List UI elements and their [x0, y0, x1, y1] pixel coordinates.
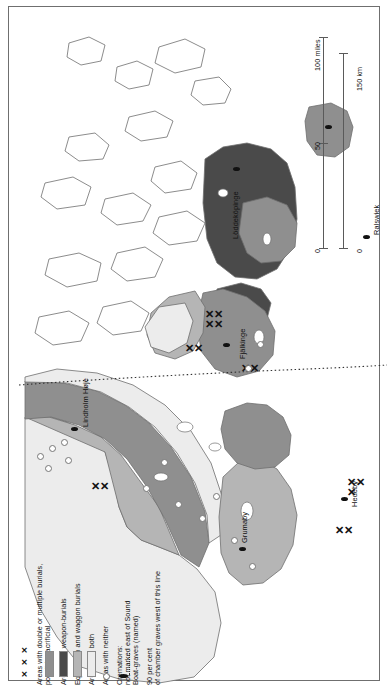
island-e: [125, 111, 173, 141]
place-label-lindholm-hoje: Lindholm Høje: [81, 378, 90, 427]
map-frame: ✕✕ ✕✕✕✕ ✕✕ ✕✕ ✕✕✕ ✕✕ Lindholm Høje Lödde…: [8, 6, 380, 681]
scale-label-km-0: 0: [355, 249, 364, 253]
boat-grave-dot-hedeby: [341, 497, 348, 501]
cremation-marker: [161, 459, 168, 466]
scale-label-miles-0: 0: [313, 249, 322, 253]
place-label-hedeby: Hedeby: [350, 481, 359, 507]
island-i: [151, 161, 197, 193]
lake-7: [263, 233, 271, 245]
cremation-marker: [257, 341, 264, 348]
legend-label-boat-graves: Boat-graves (named): [131, 616, 140, 685]
cremation-marker: [61, 439, 68, 446]
legend-swatch-weapon-burials: [45, 651, 54, 677]
lake-3: [154, 473, 168, 481]
island-m: [35, 311, 89, 345]
scale-tick-km-0: [339, 248, 348, 249]
boat-grave-dot-lindholm-hoje: [71, 427, 78, 431]
cremation-marker: [143, 485, 150, 492]
cremation-marker: [175, 501, 182, 508]
boat-grave-dot-fjalkinge: [223, 343, 230, 347]
cremation-marker: [213, 493, 220, 500]
region-funen-weapon: [221, 403, 291, 469]
scale-label-miles-50: 50: [313, 142, 322, 150]
map-x-cluster-6: ✕✕: [335, 525, 353, 535]
map-x-cluster-3: ✕✕: [185, 343, 203, 353]
island-k: [111, 247, 163, 281]
cremation-marker: [231, 537, 238, 544]
scale-bar: 0 50 100 miles 0 150 km: [297, 31, 369, 263]
figure-page: ✕✕ ✕✕✕✕ ✕✕ ✕✕ ✕✕✕ ✕✕ Lindholm Høje Lödde…: [0, 0, 388, 687]
lake-2: [209, 443, 221, 451]
place-label-ralswiek: Ralswiek: [372, 205, 381, 235]
island-b: [115, 61, 153, 89]
island-g: [41, 177, 91, 209]
scale-label-km-unit: 150 km: [355, 67, 364, 91]
legend-symbol-double-burials: ✕: [21, 659, 28, 667]
legend-symbol-chamber-line: [129, 653, 130, 675]
cremation-marker: [245, 365, 252, 372]
cremation-marker: [199, 515, 206, 522]
island-a: [67, 37, 105, 65]
legend-swatch-neither: [87, 651, 96, 677]
island-j: [45, 253, 101, 287]
cremation-marker: [249, 563, 256, 570]
map-x-cluster-2: ✕✕✕✕: [205, 309, 223, 329]
legend-symbol-cremations: [103, 673, 110, 680]
legend-symbol-double-burials: ✕: [21, 647, 28, 655]
scale-tick-miles-100: [319, 37, 328, 38]
region-ne-weapon: [239, 197, 297, 263]
island-n: [97, 301, 149, 335]
legend: ✕ ✕ ✕ Areas with double or multiple buri…: [19, 447, 139, 687]
island-c: [155, 39, 205, 73]
scale-tick-km-150: [339, 53, 348, 54]
scale-bar-km-line: [343, 53, 344, 249]
region-south-jutland-both: [219, 459, 297, 585]
place-label-fjalkinge: Fjälkinge: [238, 329, 247, 359]
place-label-grumaby: Grumaby: [240, 512, 249, 543]
boat-grave-dot-grumaby: [239, 547, 246, 551]
island-h: [101, 193, 151, 225]
island-d: [191, 77, 231, 105]
island-l: [153, 211, 205, 245]
legend-symbol-boat-graves: [119, 674, 128, 678]
legend-swatch-both: [73, 651, 82, 677]
legend-label-chamber-line: 90 per centof chamber graves west of thi…: [145, 571, 162, 685]
lake-6: [218, 189, 228, 197]
legend-symbol-double-burials: ✕: [21, 671, 28, 679]
legend-swatch-equestrian-waggon: [59, 651, 68, 677]
lake-1: [177, 422, 193, 432]
place-label-loddekopinge: Löddeköpinge: [231, 191, 240, 239]
scale-label-miles-unit: 100 miles: [313, 39, 322, 71]
boat-grave-dot-loddekopinge: [233, 167, 240, 171]
island-f: [65, 133, 109, 161]
